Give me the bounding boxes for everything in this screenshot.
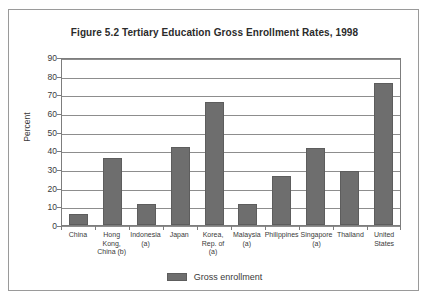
- bar-slot: [366, 59, 400, 225]
- chart-legend: Gross enrollment: [9, 272, 420, 282]
- x-tick-mark: [95, 226, 96, 230]
- x-tick-mark: [163, 226, 164, 230]
- x-tick-mark: [367, 226, 368, 230]
- x-category-label: Singapore(a): [300, 231, 334, 257]
- y-axis-tick-labels: 0102030405060708090: [33, 58, 57, 226]
- bar-slot: [265, 59, 299, 225]
- y-tick-label: 70: [48, 90, 57, 100]
- bar-slot: [130, 59, 164, 225]
- x-category-label: China: [61, 231, 95, 257]
- x-tick-mark: [197, 226, 198, 230]
- y-tick-label: 30: [48, 165, 57, 175]
- y-tick-label: 80: [48, 72, 57, 82]
- x-tick-mark: [333, 226, 334, 230]
- bar-slot: [163, 59, 197, 225]
- bar-slot: [197, 59, 231, 225]
- bar-slot: [231, 59, 265, 225]
- x-axis-tick-marks: [61, 226, 401, 230]
- y-tick-label: 60: [48, 109, 57, 119]
- bar[interactable]: [137, 204, 156, 225]
- bar[interactable]: [374, 83, 393, 225]
- bar[interactable]: [272, 176, 291, 225]
- bar-slot: [299, 59, 333, 225]
- bar[interactable]: [205, 102, 224, 225]
- bar[interactable]: [171, 147, 190, 225]
- x-tick-mark: [400, 226, 401, 230]
- y-tick-label: 50: [48, 128, 57, 138]
- chart-title: Figure 5.2 Tertiary Education Gross Enro…: [9, 27, 420, 38]
- legend-label: Gross enrollment: [194, 272, 263, 282]
- bar-slot: [62, 59, 96, 225]
- y-tick-label: 90: [48, 53, 57, 63]
- bar[interactable]: [306, 148, 325, 225]
- y-tick-label: 20: [48, 184, 57, 194]
- y-tick-label: 10: [48, 202, 57, 212]
- x-category-label: Japan: [162, 231, 196, 257]
- y-tick-label: 40: [48, 146, 57, 156]
- x-category-label: Thailand: [333, 231, 367, 257]
- x-tick-mark: [61, 226, 62, 230]
- bar[interactable]: [238, 204, 257, 225]
- x-tick-mark: [129, 226, 130, 230]
- bar[interactable]: [103, 158, 122, 225]
- legend-swatch-gross-enrollment: [167, 273, 187, 281]
- bar-slot: [332, 59, 366, 225]
- x-tick-mark: [299, 226, 300, 230]
- bar[interactable]: [69, 214, 88, 225]
- figure-frame: Figure 5.2 Tertiary Education Gross Enro…: [8, 9, 419, 291]
- bars-layer: [62, 59, 400, 225]
- bar[interactable]: [340, 171, 359, 225]
- x-category-label: Korea,Rep. of (a): [196, 231, 230, 257]
- x-category-label: Malaysia(a): [230, 231, 264, 257]
- y-axis-title: Percent: [22, 97, 32, 157]
- x-category-label: HongKong,China (b): [95, 231, 129, 257]
- x-category-label: Philippines: [264, 231, 300, 257]
- plot-area: [61, 58, 401, 226]
- x-tick-mark: [265, 226, 266, 230]
- x-axis-category-labels: ChinaHongKong,China (b)Indonesia(a)Japan…: [61, 231, 401, 257]
- x-tick-mark: [231, 226, 232, 230]
- bar-slot: [96, 59, 130, 225]
- x-category-label: UnitedStates: [367, 231, 401, 257]
- x-category-label: Indonesia(a): [129, 231, 163, 257]
